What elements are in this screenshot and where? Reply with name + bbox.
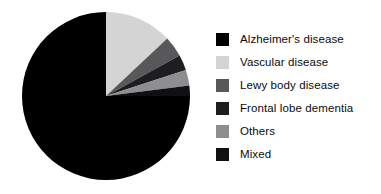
- legend-label-vascular-disease: Vascular disease: [240, 56, 328, 69]
- legend-label-frontal-lobe-dementia: Frontal lobe dementia: [240, 102, 353, 115]
- legend-item-vascular-disease[interactable]: Vascular disease: [216, 51, 378, 74]
- legend-item-mixed[interactable]: Mixed: [216, 143, 378, 166]
- legend-swatch-vascular-disease: [216, 56, 229, 69]
- legend-item-frontal-lobe-dementia[interactable]: Frontal lobe dementia: [216, 97, 378, 120]
- legend-swatch-alzheimers-disease: [216, 33, 229, 46]
- legend-swatch-mixed: [216, 148, 229, 161]
- legend-item-others[interactable]: Others: [216, 120, 378, 143]
- legend-item-alzheimers-disease[interactable]: Alzheimer's disease: [216, 28, 378, 51]
- pie-slice-group: [22, 12, 190, 180]
- legend-swatch-lewy-body-disease: [216, 79, 229, 92]
- legend-item-lewy-body-disease[interactable]: Lewy body disease: [216, 74, 378, 97]
- legend-label-others: Others: [240, 125, 275, 138]
- chart-legend: Alzheimer's disease Vascular disease Lew…: [216, 28, 378, 166]
- pie-chart-plot-area: [21, 11, 191, 181]
- pie-chart-figure: Alzheimer's disease Vascular disease Lew…: [0, 0, 381, 194]
- legend-swatch-frontal-lobe-dementia: [216, 102, 229, 115]
- pie-chart-svg: [21, 11, 191, 181]
- legend-swatch-others: [216, 125, 229, 138]
- legend-label-alzheimers-disease: Alzheimer's disease: [240, 33, 344, 46]
- legend-label-mixed: Mixed: [240, 148, 271, 161]
- legend-label-lewy-body-disease: Lewy body disease: [240, 79, 340, 92]
